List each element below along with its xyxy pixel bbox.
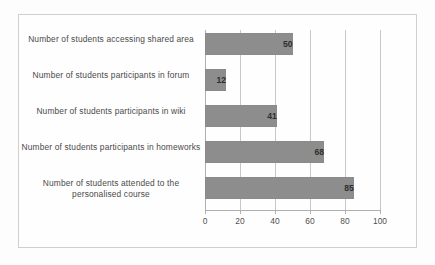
bar-chart-figure: Number of students accessing shared area…	[0, 0, 435, 265]
axis-tick-60	[310, 210, 311, 214]
chart-row: Number of students attended to the perso…	[0, 174, 435, 210]
chart-row: Number of students participants in wiki …	[0, 102, 435, 138]
axis-tick-80	[345, 210, 346, 214]
x-tick-label: 20	[225, 216, 255, 226]
bar-track: 68	[205, 141, 380, 163]
category-label: Number of students participants in homew…	[20, 142, 202, 153]
bar-value-label: 50	[205, 33, 298, 55]
bar-track: 12	[205, 69, 380, 91]
bar-track: 50	[205, 33, 380, 55]
x-tick-label: 40	[260, 216, 290, 226]
axis-tick-20	[240, 210, 241, 214]
category-label: Number of students participants in forum	[20, 70, 202, 81]
category-label: Number of students attended to the perso…	[20, 178, 202, 200]
chart-row: Number of students participants in homew…	[0, 138, 435, 174]
bar-value-label: 41	[205, 105, 282, 127]
bar-value-label: 68	[205, 141, 329, 163]
x-tick-label: 60	[295, 216, 325, 226]
axis-tick-0	[205, 210, 206, 214]
x-tick-label: 100	[365, 216, 395, 226]
x-tick-label: 0	[190, 216, 220, 226]
chart-row: Number of students participants in forum…	[0, 66, 435, 102]
axis-tick-100	[380, 210, 381, 214]
bar-track: 41	[205, 105, 380, 127]
bar-track: 85	[205, 177, 380, 199]
bar-value-label: 12	[205, 69, 231, 91]
x-tick-label: 80	[330, 216, 360, 226]
category-label: Number of students accessing shared area	[20, 34, 202, 45]
x-axis-line	[205, 210, 381, 211]
bar-value-label: 85	[205, 177, 359, 199]
axis-tick-40	[275, 210, 276, 214]
chart-row: Number of students accessing shared area…	[0, 30, 435, 66]
category-label: Number of students participants in wiki	[20, 106, 202, 117]
